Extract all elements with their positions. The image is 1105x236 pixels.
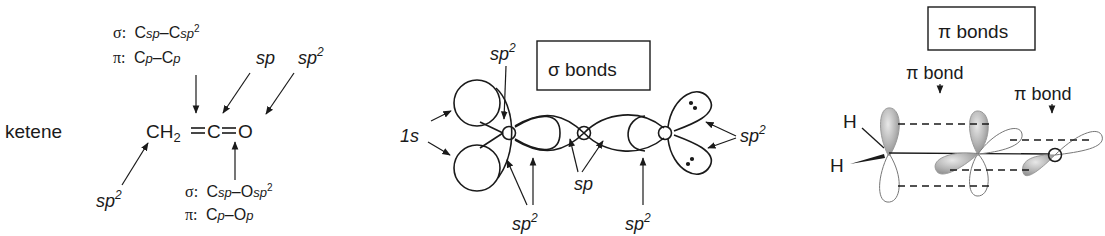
h-bottom-wedge-bond <box>850 154 885 164</box>
arrow-to-ch2 <box>122 143 148 185</box>
oxygen-atom: O <box>238 121 253 142</box>
svg-text:π: Cp–Op: π: Cp–Op <box>185 206 253 223</box>
bottom-bond-label: σ: Csp–Osp2 π: Cp–Op <box>185 182 273 223</box>
c1-nucleus <box>503 127 516 140</box>
o-lone-pair-sp2-label: sp2 <box>740 123 766 146</box>
c1-sp2-top-label: sp2 <box>490 41 516 64</box>
svg-text:σ: Csp–Osp2: σ: Csp–Osp2 <box>185 182 273 200</box>
o-lone-pair-lobe-top <box>668 92 711 131</box>
svg-text:CH2: CH2 <box>146 121 181 145</box>
o-sp2-bottom-label: sp2 <box>625 211 651 234</box>
svg-text:σ: Csp–Csp2: σ: Csp–Csp2 <box>113 23 200 41</box>
o-p-orbital-front <box>1023 155 1055 176</box>
oxygen-nucleus <box>659 127 672 140</box>
sigma-bonds-panel: σ bonds 1s sp2 sp2 <box>400 41 766 234</box>
pi-bond-label-1: π bond <box>906 63 963 83</box>
o-p-orbital-back <box>1055 131 1102 155</box>
pi-title: π bonds <box>938 21 1008 42</box>
pi-symbol: π: <box>113 49 126 66</box>
c1-sp2-bottom-label: sp2 <box>512 211 538 234</box>
c2-p-orbital-vertical-bottom <box>970 155 989 196</box>
ketene-panel: ketene σ: Csp–Csp2 π: Cp–Cp CH2 C O <box>5 23 324 223</box>
o-lone-pair-lobe-bottom <box>668 135 711 174</box>
h-1s-label: 1s <box>400 126 419 146</box>
h-1s-orbital-top <box>454 80 500 126</box>
ketene-bonding-diagram: ketene σ: Csp–Csp2 π: Cp–Cp CH2 C O <box>0 0 1105 236</box>
c2-sp-label: sp <box>574 174 593 194</box>
h-1s-orbital-bottom <box>454 145 500 191</box>
ch2-hybrid-label: sp2 <box>96 188 122 211</box>
central-carbon: C <box>207 121 221 142</box>
h-bottom-label: H <box>830 155 844 176</box>
ketene-name-label: ketene <box>5 121 62 142</box>
svg-text:π: Cp–Cp: π: Cp–Cp <box>113 49 180 66</box>
sigma-symbol: σ: <box>113 24 126 41</box>
pi-overlap-dashes <box>898 124 1092 186</box>
central-c-hybrid-label: sp <box>256 48 275 68</box>
top-bond-label: σ: Csp–Csp2 π: Cp–Cp <box>113 23 200 66</box>
c1-p-orbital-bottom <box>880 155 900 202</box>
pi-bonds-panel: π bonds π bond π bond H H C <box>830 7 1102 202</box>
ketene-formula: CH2 C O <box>146 121 253 145</box>
arrow-to-central-c <box>223 73 250 113</box>
oxygen-hybrid-label: sp2 <box>298 45 324 68</box>
sigma-title: σ bonds <box>548 59 617 80</box>
arrow-to-oxygen <box>266 73 294 114</box>
h-top-label: H <box>843 111 857 132</box>
pi-bond-label-2: π bond <box>1014 84 1071 104</box>
